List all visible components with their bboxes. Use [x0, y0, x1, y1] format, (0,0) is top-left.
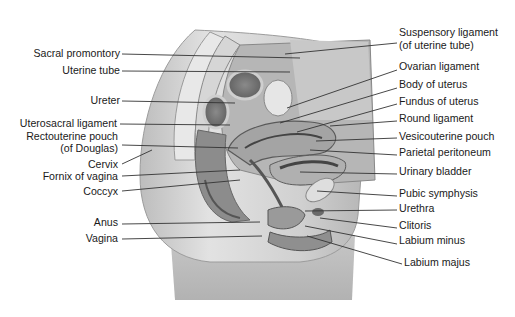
label-urethra: Urethra — [399, 202, 434, 214]
label-fornix-of-vagina: Fornix of vagina — [43, 170, 118, 182]
label-vagina: Vagina — [86, 232, 118, 244]
label-ureter: Ureter — [91, 94, 120, 106]
label-round-ligament: Round ligament — [399, 112, 473, 124]
label-fundus-of-uterus: Fundus of uterus — [399, 95, 479, 107]
label-of-douglas: (of Douglas) — [60, 142, 118, 154]
label-parietal-peritoneum: Parietal peritoneum — [399, 146, 491, 158]
label-sacral-promontory: Sacral promontory — [33, 47, 120, 59]
label-body-of-uterus: Body of uterus — [399, 78, 467, 90]
label-uterosacral-ligament: Uterosacral ligament — [20, 117, 117, 129]
label-rectouterine-pouch: Rectouterine pouch — [26, 130, 118, 142]
label-uterine-tube: Uterine tube — [62, 64, 120, 76]
anatomy-diagram: Sacral promontoryUterine tubeUreterUtero… — [0, 0, 515, 317]
label-ovarian-ligament: Ovarian ligament — [399, 60, 479, 72]
ovary — [264, 80, 292, 116]
label-vesicouterine-pouch: Vesicouterine pouch — [399, 130, 494, 142]
label-pubic-symphysis: Pubic symphysis — [399, 187, 478, 199]
label-labium-majus: Labium majus — [404, 256, 470, 268]
label-cervix: Cervix — [88, 158, 118, 170]
label-coccyx: Coccyx — [83, 185, 118, 197]
label-suspensory-ligament: Suspensory ligament — [399, 26, 498, 38]
label-anus: Anus — [94, 216, 118, 228]
label-clitoris: Clitoris — [399, 219, 431, 231]
label-of-uterine-tube: (of uterine tube) — [399, 39, 474, 51]
label-labium-minus: Labium minus — [399, 234, 465, 246]
label-urinary-bladder: Urinary bladder — [399, 165, 471, 177]
